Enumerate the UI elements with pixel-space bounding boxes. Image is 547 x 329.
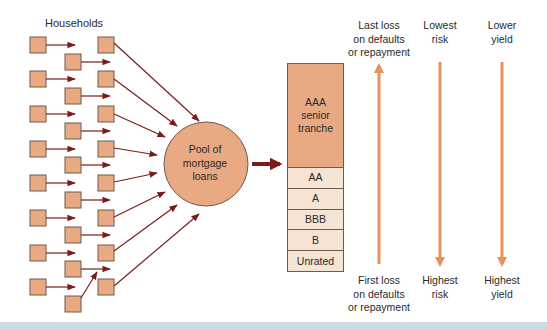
household-box — [65, 123, 81, 139]
household-box — [98, 71, 114, 87]
household-column-left — [30, 37, 46, 295]
household-box — [30, 210, 46, 226]
label-line: Lower — [457, 19, 547, 33]
household-box — [98, 37, 114, 53]
label-line: yield — [457, 33, 547, 47]
household-box — [98, 245, 114, 261]
household-box — [30, 71, 46, 87]
households-title: Households — [45, 17, 103, 29]
household-box — [65, 157, 81, 173]
household-box — [30, 245, 46, 261]
household-box — [30, 279, 46, 295]
label-line: or repayment — [334, 301, 424, 315]
tranche-label: AAA — [298, 96, 333, 109]
household-box — [98, 210, 114, 226]
tranche-label: senior — [298, 109, 333, 122]
pool-label-line: loans — [163, 170, 247, 184]
tranche-a: A — [288, 188, 343, 209]
household-box — [98, 279, 114, 295]
household-box — [65, 54, 81, 70]
label-line: or repayment — [334, 46, 424, 60]
household-column-right — [98, 37, 114, 295]
household-box — [65, 296, 81, 312]
household-box — [98, 175, 114, 191]
tranche-aaa-senior: AAA senior tranche — [288, 64, 343, 167]
household-box — [30, 175, 46, 191]
household-box — [65, 88, 81, 104]
tranche-unrated: Unrated — [288, 250, 343, 271]
tranche-bbb: BBB — [288, 209, 343, 230]
label-line: Highest — [457, 274, 547, 288]
tranche-label: tranche — [298, 122, 333, 135]
household-box — [98, 106, 114, 122]
household-box — [98, 141, 114, 157]
tranche-b: B — [288, 229, 343, 250]
tranche-aa: AA — [288, 167, 343, 188]
household-box — [65, 261, 81, 277]
household-box — [30, 106, 46, 122]
pool-label-line: Pool of — [163, 143, 247, 157]
yield-top-label: Lower yield — [457, 19, 547, 46]
household-box — [30, 141, 46, 157]
tranche-stack: AAA senior tranche AA A BBB B Unrated — [287, 63, 344, 272]
household-box — [65, 192, 81, 208]
household-box — [65, 227, 81, 243]
label-line: yield — [457, 288, 547, 302]
bottom-band — [0, 322, 547, 329]
household-box — [30, 37, 46, 53]
pool-label-line: mortgage — [163, 157, 247, 171]
yield-bottom-label: Highest yield — [457, 274, 547, 301]
pool-label: Pool of mortgage loans — [163, 143, 247, 184]
